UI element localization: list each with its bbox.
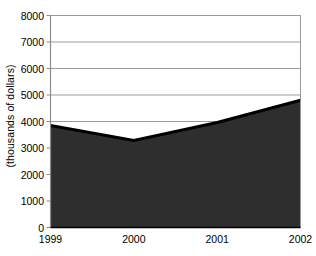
area-chart: (thousands of dollars) 01000200030004000… xyxy=(0,0,316,256)
area-series-fill xyxy=(51,100,301,227)
plot-area xyxy=(0,0,316,256)
